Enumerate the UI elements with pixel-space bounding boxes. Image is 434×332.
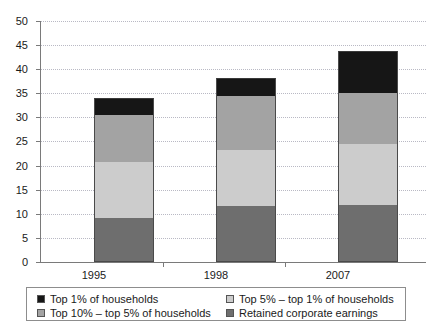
legend-item-retained[interactable]: Retained corporate earnings: [226, 307, 378, 319]
legend-item-top5-1[interactable]: Top 5% – top 1% of households: [226, 293, 394, 305]
y-tick-label: 30: [16, 112, 28, 123]
x-tick-mark: [285, 262, 286, 267]
legend-label: Top 5% – top 1% of households: [239, 293, 394, 305]
bar-stack: [94, 98, 154, 262]
x-tick-label-1995: 1995: [54, 269, 134, 281]
legend-label: Top 10% – top 5% of households: [50, 307, 211, 319]
legend-item-top10-5[interactable]: Top 10% – top 5% of households: [37, 307, 211, 319]
bars-layer: [41, 0, 426, 262]
bar-segment-retained[interactable]: [216, 206, 276, 262]
legend: Top 1% of households Top 10% – top 5% of…: [26, 287, 406, 321]
y-tick-label: 10: [16, 209, 28, 220]
x-tick-label-2007: 2007: [298, 269, 378, 281]
legend-swatch-icon: [37, 295, 45, 303]
bar-segment-retained[interactable]: [338, 205, 398, 262]
y-tick-label: 40: [16, 64, 28, 75]
bar-segment-top1[interactable]: [94, 98, 154, 115]
bar-segment-top10-5[interactable]: [94, 115, 154, 162]
y-tick-label: 5: [22, 233, 28, 244]
y-tick-label: 25: [16, 136, 28, 147]
bar-segment-top5-1[interactable]: [216, 150, 276, 206]
bar-segment-top1[interactable]: [216, 78, 276, 96]
y-axis: 50 45 40 35 30 25 20 15 10 5 0: [0, 0, 36, 282]
plot-area: 50 45 40 35 30 25 20 15 10 5 0: [0, 0, 434, 282]
bar-stack: [216, 78, 276, 262]
y-tick-label: 50: [16, 16, 28, 27]
y-tick-label: 35: [16, 88, 28, 99]
y-tick-label: 45: [16, 40, 28, 51]
bar-segment-top10-5[interactable]: [338, 93, 398, 144]
x-tick-label-1998: 1998: [176, 269, 256, 281]
legend-label: Top 1% of households: [50, 293, 158, 305]
legend-swatch-icon: [37, 309, 45, 317]
x-tick-mark: [163, 262, 164, 267]
bar-segment-retained[interactable]: [94, 218, 154, 262]
legend-swatch-icon: [226, 295, 234, 303]
bar-segment-top10-5[interactable]: [216, 96, 276, 150]
y-tick-label: 20: [16, 161, 28, 172]
stacked-bar-chart: 50 45 40 35 30 25 20 15 10 5 0: [0, 0, 434, 332]
bar-segment-top1[interactable]: [338, 51, 398, 93]
legend-item-top1[interactable]: Top 1% of households: [37, 293, 158, 305]
x-axis-line: [40, 262, 426, 263]
y-tick-label: 0: [22, 257, 28, 268]
bar-segment-top5-1[interactable]: [94, 162, 154, 218]
bar-segment-top5-1[interactable]: [338, 144, 398, 204]
bar-stack: [338, 51, 398, 262]
legend-swatch-icon: [226, 309, 234, 317]
legend-label: Retained corporate earnings: [239, 307, 378, 319]
y-tick-label: 15: [16, 185, 28, 196]
